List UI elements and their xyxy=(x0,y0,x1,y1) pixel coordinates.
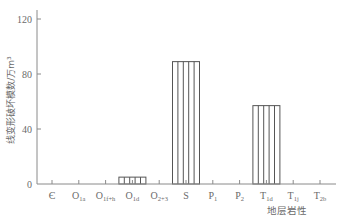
x-tick-label: O1f+h xyxy=(96,190,116,202)
x-tick-label: O1a xyxy=(72,190,85,202)
x-tick-label: P1 xyxy=(208,190,217,202)
x-tick-label: T2b xyxy=(314,190,327,202)
y-tick-label: 120 xyxy=(17,14,32,25)
x-tick-label: S xyxy=(183,190,189,201)
bar-chart: 04080120 ЄO1aO1f+hO1dO2+3SP1P2T1dT1jT2b … xyxy=(0,0,343,223)
x-tick-label: Є xyxy=(49,190,56,201)
y-tick-label: 0 xyxy=(27,179,32,190)
y-tick-label: 40 xyxy=(22,124,32,135)
bar-rect xyxy=(253,106,280,184)
x-tick-label: O1d xyxy=(126,190,140,202)
bar xyxy=(173,62,200,184)
x-tick-label: T1j xyxy=(288,190,299,202)
y-axis-label: 线变形破坏模数/万m³ xyxy=(5,56,16,144)
x-tick-label: P2 xyxy=(235,190,244,202)
y-tick-label: 80 xyxy=(22,69,32,80)
x-tick-label: T1d xyxy=(260,190,273,202)
x-tick-label: O2+3 xyxy=(150,190,167,202)
x-axis-label: 地层岩性 xyxy=(267,205,307,216)
bar xyxy=(253,106,280,184)
bars-group xyxy=(119,62,280,184)
bar-rect xyxy=(173,62,200,184)
